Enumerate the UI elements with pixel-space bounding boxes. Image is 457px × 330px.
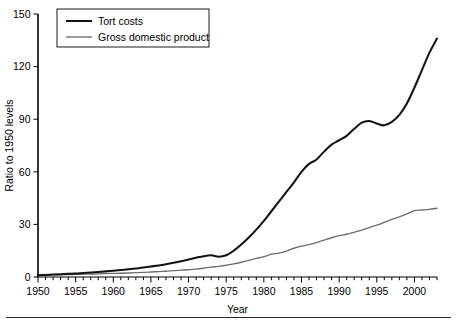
y-tick-label: 30 <box>19 218 31 230</box>
x-tick-label: 1970 <box>177 285 201 297</box>
x-tick-label: 1950 <box>26 285 50 297</box>
x-tick-label: 1975 <box>215 285 239 297</box>
chart-figure: 0306090120150195019551960196519701975198… <box>0 0 457 330</box>
y-tick-label: 60 <box>19 166 31 178</box>
line-chart: 0306090120150195019551960196519701975198… <box>0 0 457 330</box>
legend-label: Gross domestic product <box>98 31 209 43</box>
x-tick-label: 2000 <box>403 285 427 297</box>
chart-legend: Tort costsGross domestic product <box>57 9 209 47</box>
y-axis-title: Ratio to 1950 levels <box>3 99 15 191</box>
axis-labels: 0306090120150195019551960196519701975198… <box>3 8 426 315</box>
x-tick-label: 1980 <box>252 285 276 297</box>
x-tick-label: 1960 <box>102 285 126 297</box>
x-tick-label: 1985 <box>290 285 314 297</box>
x-tick-label: 1990 <box>327 285 351 297</box>
series-line <box>38 39 437 276</box>
y-tick-label: 150 <box>13 8 31 20</box>
y-axis-ticks <box>34 14 39 277</box>
data-series <box>38 39 437 276</box>
x-axis-title: Year <box>227 303 249 315</box>
legend-label: Tort costs <box>98 15 143 27</box>
x-axis-ticks <box>38 277 437 283</box>
x-tick-label: 1995 <box>365 285 389 297</box>
series-line <box>38 208 437 275</box>
y-tick-label: 90 <box>19 113 31 125</box>
x-tick-label: 1965 <box>139 285 163 297</box>
footer-rule <box>6 317 451 318</box>
x-tick-label: 1955 <box>64 285 88 297</box>
y-tick-label: 120 <box>13 60 31 72</box>
y-tick-label: 0 <box>25 271 31 283</box>
